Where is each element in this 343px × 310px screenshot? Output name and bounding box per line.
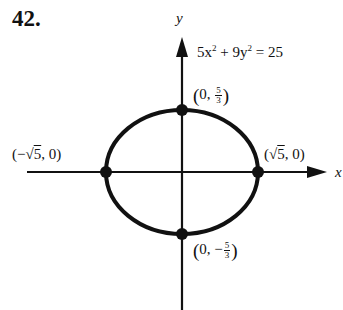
x-axis-label: x <box>335 165 342 180</box>
y-axis-label: y <box>176 11 183 26</box>
point-left <box>100 166 112 178</box>
point-left-label: (−√5, 0) <box>12 147 61 162</box>
point-top-label: (0, 53) <box>193 86 229 105</box>
x-axis-arrow-icon <box>307 166 327 178</box>
point-right <box>252 166 264 178</box>
point-bottom <box>176 228 188 240</box>
point-top <box>176 104 188 116</box>
problem-number: 42. <box>12 6 41 32</box>
equation-label: 5x2 + 9y2 = 25 <box>197 44 283 60</box>
point-bottom-label: (0, −53) <box>193 241 238 260</box>
point-right-label: (√5, 0) <box>264 147 305 162</box>
y-axis-arrow-icon <box>176 37 188 57</box>
